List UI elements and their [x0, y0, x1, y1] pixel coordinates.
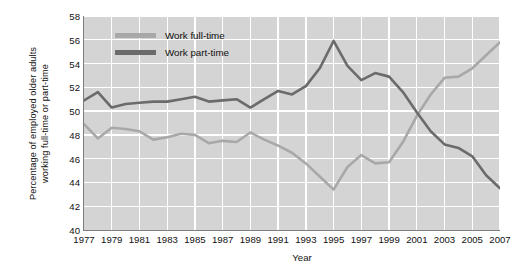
chart-legend: Work full-timeWork part-time	[115, 27, 229, 61]
x-tick-label: 1981	[129, 234, 150, 245]
y-tick-label: 50	[69, 106, 80, 117]
x-tick-label: 1995	[323, 234, 344, 245]
x-tick-label: 1983	[157, 234, 178, 245]
x-tick-label: 1991	[267, 234, 288, 245]
x-tick-label: 1989	[240, 234, 261, 245]
x-tick-label: 1979	[101, 234, 122, 245]
x-axis-title: Year	[0, 252, 522, 263]
line-chart: Percentage of employed older adults work…	[0, 0, 522, 273]
x-tick-label: 2007	[489, 234, 510, 245]
y-tick-label: 44	[69, 177, 80, 188]
legend-swatch	[115, 50, 156, 54]
x-tick-label: 1993	[295, 234, 316, 245]
y-tick-label: 56	[69, 34, 80, 45]
y-axis-title: Percentage of employed older adults work…	[28, 9, 51, 239]
x-tick-label: 2001	[406, 234, 427, 245]
y-tick-label: 58	[69, 11, 80, 22]
x-tick-label: 1987	[212, 234, 233, 245]
y-tick-label: 54	[69, 58, 80, 69]
legend-item: Work full-time	[115, 27, 229, 44]
x-tick-label: 2003	[434, 234, 455, 245]
y-axis-tick-labels: 40424446485052545658	[56, 16, 80, 230]
x-axis-title-text: Year	[292, 252, 311, 263]
y-tick-label: 48	[69, 129, 80, 140]
x-tick-label: 1997	[351, 234, 372, 245]
series-line	[84, 42, 500, 189]
x-axis-line	[84, 230, 500, 231]
y-tick-label: 42	[69, 201, 80, 212]
y-tick-label: 52	[69, 82, 80, 93]
x-tick-label: 1999	[378, 234, 399, 245]
y-tick-label: 46	[69, 153, 80, 164]
x-tick-label: 1985	[184, 234, 205, 245]
y-axis-title-line-1: Percentage of employed older adults	[28, 9, 40, 239]
series-line	[84, 41, 500, 188]
legend-swatch	[115, 33, 156, 37]
legend-label: Work full-time	[165, 30, 225, 41]
x-axis-tick-labels: 1977197919811983198519871989199119931995…	[84, 234, 500, 250]
legend-label: Work part-time	[165, 47, 229, 58]
y-axis-title-line-2: working full-time or part-time	[39, 9, 51, 239]
x-tick-label: 1977	[73, 234, 94, 245]
x-tick-label: 2005	[462, 234, 483, 245]
legend-item: Work part-time	[115, 44, 229, 61]
